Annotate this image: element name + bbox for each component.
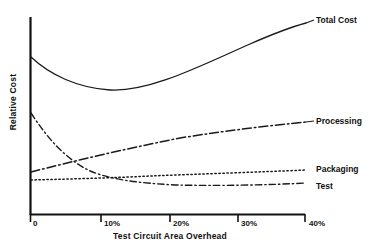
series-label-packaging: Packaging	[316, 164, 359, 174]
series-label-total-cost: Total Cost	[316, 15, 357, 25]
x-tick-label-20: 20%	[173, 219, 189, 228]
chart-plot-area	[0, 0, 369, 248]
label-leader-lines	[306, 20, 314, 122]
series-label-test: Test	[316, 181, 333, 191]
x-axis-title: Test Circuit Area Overhead	[95, 231, 245, 241]
x-tick-label-30: 30%	[241, 219, 257, 228]
series-line-test	[31, 113, 306, 185]
x-tick-label-40: 40%	[309, 219, 325, 228]
x-tick-label-0: 0	[33, 219, 37, 228]
series-label-processing: Processing	[316, 116, 362, 126]
x-tick-label-10: 10%	[104, 219, 120, 228]
series-line-packaging	[31, 170, 306, 180]
series-line-total-cost	[31, 23, 306, 90]
y-axis-title: Relative Cost	[8, 67, 18, 137]
series-line-processing	[31, 122, 306, 172]
chart-figure: Relative Cost Test Circuit Area Overhead…	[0, 0, 369, 248]
